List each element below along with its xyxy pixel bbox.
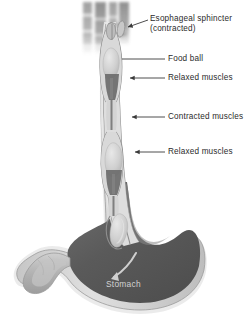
label-relaxed-muscles-upper: Relaxed muscles (168, 73, 233, 83)
label-esophageal-sphincter: Esophageal sphincter (contracted) (150, 14, 232, 34)
label-stomach-text: Stomach (106, 279, 141, 289)
anatomy-figure: Esophageal sphincter (contracted) Food b… (0, 0, 252, 320)
label-contracted-muscles: Contracted muscles (168, 112, 243, 122)
label-relaxed-muscles-upper-text: Relaxed muscles (168, 73, 233, 82)
label-relaxed-muscles-lower: Relaxed muscles (168, 147, 233, 157)
label-contracted-muscles-text: Contracted muscles (168, 112, 243, 121)
label-stomach: Stomach (106, 279, 141, 289)
label-food-ball-text: Food ball (168, 54, 203, 63)
label-food-ball: Food ball (168, 54, 203, 64)
label-esophageal-sphincter-line2: (contracted) (150, 24, 232, 34)
anatomy-illustration (0, 0, 252, 320)
leader-esophageal-sphincter (128, 20, 148, 27)
label-esophageal-sphincter-line1: Esophageal sphincter (150, 14, 232, 23)
label-relaxed-muscles-lower-text: Relaxed muscles (168, 147, 233, 156)
